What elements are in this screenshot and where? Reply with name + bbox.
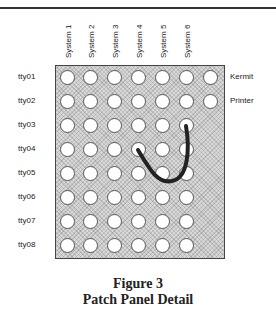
jack xyxy=(60,142,75,157)
label-kermit: Kermit xyxy=(230,72,253,81)
row-label: tty07 xyxy=(18,216,52,225)
jack xyxy=(131,94,146,109)
jack xyxy=(155,70,170,85)
column-label: System 2 xyxy=(86,14,100,58)
jack xyxy=(60,214,75,229)
column-label: System 5 xyxy=(158,14,172,58)
jack xyxy=(60,118,75,133)
jack xyxy=(131,118,146,133)
jack xyxy=(179,142,194,157)
jack xyxy=(60,70,75,85)
jack xyxy=(83,166,98,181)
column-label: System 1 xyxy=(63,14,77,58)
jack xyxy=(131,142,146,157)
jack xyxy=(203,94,218,109)
label-printer: Printer xyxy=(230,96,254,105)
jack xyxy=(203,70,218,85)
jack xyxy=(107,214,122,229)
jack xyxy=(60,238,75,253)
jack xyxy=(60,166,75,181)
jack xyxy=(155,142,170,157)
jack xyxy=(155,166,170,181)
row-label: tty04 xyxy=(18,144,52,153)
jack xyxy=(155,238,170,253)
jack xyxy=(107,190,122,205)
jack xyxy=(155,214,170,229)
row-label: tty05 xyxy=(18,168,52,177)
jack xyxy=(155,94,170,109)
jack xyxy=(107,94,122,109)
jack xyxy=(60,190,75,205)
jack xyxy=(179,94,194,109)
row-label: tty01 xyxy=(18,72,52,81)
jack xyxy=(155,190,170,205)
jack xyxy=(107,166,122,181)
jack xyxy=(179,118,194,133)
jack xyxy=(155,118,170,133)
figure-title: Patch Panel Detail xyxy=(0,292,276,308)
jack xyxy=(83,118,98,133)
column-label: System 6 xyxy=(182,14,196,58)
jack xyxy=(83,94,98,109)
jack xyxy=(179,166,194,181)
row-label: tty02 xyxy=(18,96,52,105)
jack xyxy=(131,190,146,205)
jack xyxy=(179,238,194,253)
row-label: tty08 xyxy=(18,240,52,249)
jack xyxy=(83,70,98,85)
row-label: tty06 xyxy=(18,192,52,201)
jack xyxy=(107,70,122,85)
jack xyxy=(131,166,146,181)
jack xyxy=(107,238,122,253)
jack xyxy=(131,70,146,85)
jack xyxy=(60,94,75,109)
top-rule xyxy=(0,7,276,9)
column-label: System 3 xyxy=(110,14,124,58)
column-label: System 4 xyxy=(134,14,148,58)
jack xyxy=(131,214,146,229)
jack xyxy=(179,214,194,229)
jack xyxy=(83,214,98,229)
figure-number: Figure 3 xyxy=(0,276,276,292)
jack xyxy=(107,142,122,157)
jack xyxy=(107,118,122,133)
row-label: tty03 xyxy=(18,120,52,129)
jack xyxy=(179,190,194,205)
jack xyxy=(83,190,98,205)
jack xyxy=(179,70,194,85)
jack xyxy=(131,238,146,253)
jack xyxy=(83,238,98,253)
jack xyxy=(83,142,98,157)
